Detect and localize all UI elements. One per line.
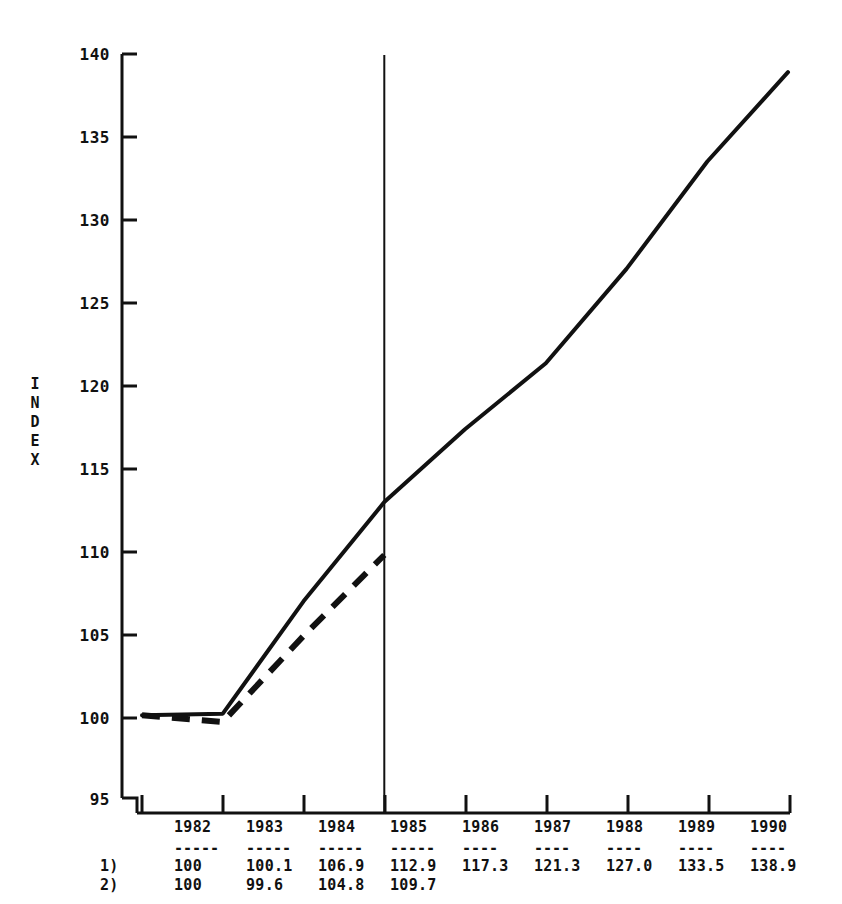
x-axis-ticks	[142, 795, 790, 813]
column-header-1985: 1985	[390, 818, 462, 839]
column-rule-1988: ----	[606, 839, 678, 857]
series-2-row-label: 2)	[96, 876, 174, 895]
table-row: 2) 100 99.6 104.8 109.7	[96, 876, 822, 895]
series-2-value-1990	[750, 876, 822, 895]
column-rule-1987: ----	[534, 839, 606, 857]
column-header-1982: 1982	[174, 818, 246, 839]
series-1-value-1984: 106.9	[318, 857, 390, 876]
series-1-value-1988: 127.0	[606, 857, 678, 876]
table-corner-cell	[96, 818, 174, 839]
series-2-value-1984: 104.8	[318, 876, 390, 895]
series-2-value-1983: 99.6	[246, 876, 318, 895]
series-1-row-label: 1)	[96, 857, 174, 876]
column-rule-1982: -----	[174, 839, 246, 857]
series-2-value-1989	[678, 876, 750, 895]
chart-container: I N D E X 140 135 130 125 120 115 110 10…	[0, 0, 842, 904]
column-header-1990: 1990	[750, 818, 822, 839]
column-rule-1983: -----	[246, 839, 318, 857]
series-1-value-1989: 133.5	[678, 857, 750, 876]
column-rule-1984: -----	[318, 839, 390, 857]
table-header-row: 1982 1983 1984 1985 1986 1987 1988 1989 …	[96, 818, 822, 839]
column-header-1986: 1986	[462, 818, 534, 839]
plot-area	[0, 0, 842, 904]
column-header-1989: 1989	[678, 818, 750, 839]
series-1-value-1990: 138.9	[750, 857, 822, 876]
column-header-1987: 1987	[534, 818, 606, 839]
series-line-1-solid	[142, 72, 788, 715]
series-1-value-1982: 100	[174, 857, 246, 876]
column-rule-1986: ----	[462, 839, 534, 857]
table-row: 1) 100 100.1 106.9 112.9 117.3 121.3 127…	[96, 857, 822, 876]
column-rule-1990: ----	[750, 839, 822, 857]
y-axis-step	[122, 798, 137, 813]
series-2-value-1986	[462, 876, 534, 895]
series-2-value-1988	[606, 876, 678, 895]
series-values-table: 1982 1983 1984 1985 1986 1987 1988 1989 …	[96, 818, 822, 895]
table-rule-corner	[96, 839, 174, 857]
column-rule-1989: ----	[678, 839, 750, 857]
series-line-2-dashed	[142, 555, 384, 722]
series-1-value-1986: 117.3	[462, 857, 534, 876]
y-axis-ticks	[122, 54, 137, 718]
series-1-value-1985: 112.9	[390, 857, 462, 876]
table-rule-row: ----- ----- ----- ----- ---- ---- ---- -…	[96, 839, 822, 857]
series-2-value-1985: 109.7	[390, 876, 462, 895]
data-table: 1982 1983 1984 1985 1986 1987 1988 1989 …	[0, 818, 842, 904]
column-header-1983: 1983	[246, 818, 318, 839]
column-header-1988: 1988	[606, 818, 678, 839]
column-rule-1985: -----	[390, 839, 462, 857]
series-1-value-1983: 100.1	[246, 857, 318, 876]
series-2-value-1987	[534, 876, 606, 895]
series-1-value-1987: 121.3	[534, 857, 606, 876]
series-2-value-1982: 100	[174, 876, 246, 895]
column-header-1984: 1984	[318, 818, 390, 839]
